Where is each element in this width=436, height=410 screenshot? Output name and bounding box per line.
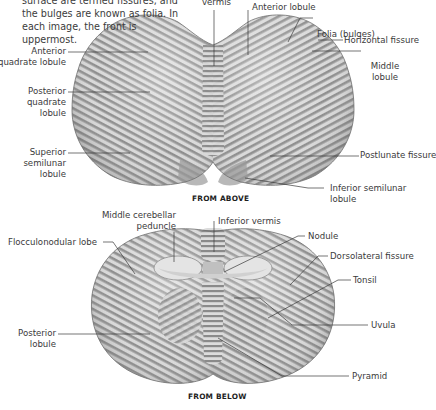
caption-from-below: FROM BELOW — [188, 392, 247, 401]
label-postlunate-fissure: Postlunate fissure — [360, 150, 436, 161]
bottom-view-cerebellum — [91, 228, 334, 383]
label-inferior-vermis: Inferior vermis — [218, 216, 281, 227]
label-superior-semilunar-lobule: Superior semilunar lobule — [0, 147, 66, 180]
label-anterior-quadrate-lobule: Anterior quadrate lobule — [0, 46, 66, 68]
label-pyramid: Pyramid — [352, 371, 387, 382]
label-nodule: Nodule — [308, 231, 338, 242]
label-middle-lobule: Middle lobule — [362, 61, 408, 83]
label-vermis: vermis — [202, 0, 231, 8]
intro-paragraph: surface are termed fissures, and the bul… — [22, 0, 182, 46]
label-posterior-lobule: Posterior lobule — [0, 328, 56, 350]
label-uvula: Uvula — [371, 320, 395, 331]
caption-from-above: FROM ABOVE — [192, 194, 249, 203]
label-flocculonodular-lobe: Flocculonodular lobe — [8, 237, 97, 248]
label-tonsil: Tonsil — [353, 275, 377, 286]
label-horizontal-fissure: Horizontal fissure — [344, 35, 419, 46]
label-anterior-lobule: Anterior lobule — [252, 2, 316, 13]
label-posterior-quadrate-lobule: Posterior quadrate lobule — [0, 86, 66, 119]
label-middle-cerebellar-peduncle: Middle cerebellar peduncle — [90, 210, 176, 232]
label-inferior-semilunar-lobule: Inferior semilunar lobule — [330, 183, 406, 205]
label-dorsolateral-fissure: Dorsolateral fissure — [330, 251, 414, 262]
